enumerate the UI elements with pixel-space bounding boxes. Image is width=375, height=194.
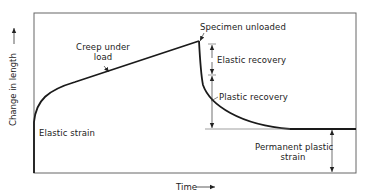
plastic-recovery-label: Plastic recovery bbox=[219, 92, 288, 102]
creep-under-load-label: Creep under load bbox=[74, 42, 132, 62]
y-axis-label: Change in length bbox=[8, 53, 18, 126]
specimen-unloaded-label: Specimen unloaded bbox=[200, 22, 286, 32]
permanent-plastic-strain-label: Permanent plastic strain bbox=[255, 142, 331, 162]
elastic-recovery-label: Elastic recovery bbox=[217, 55, 286, 65]
creep-diagram bbox=[0, 0, 375, 194]
x-axis-label: Time bbox=[176, 182, 197, 192]
elastic-strain-label: Elastic strain bbox=[39, 128, 95, 138]
unloaded-leader bbox=[200, 33, 204, 41]
